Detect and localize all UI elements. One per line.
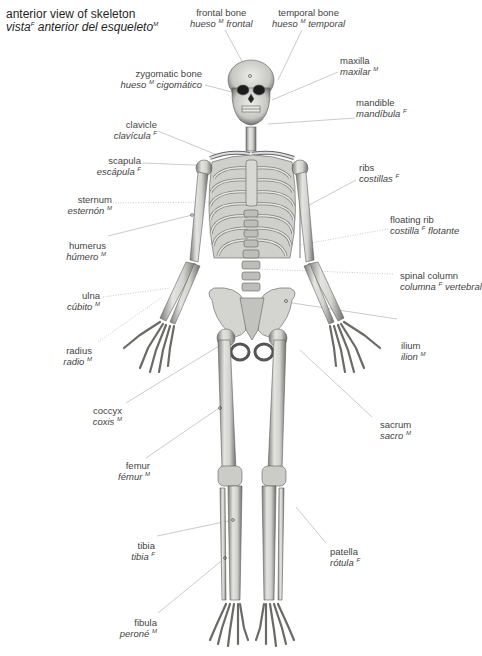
label-patella: patella rótula F bbox=[330, 546, 360, 568]
label-mandible: mandible mandíbula F bbox=[356, 97, 407, 119]
label-spinal-column: spinal column columna F vertebral bbox=[400, 270, 482, 292]
label-ulna: ulna cúbito M bbox=[67, 290, 100, 312]
label-sacrum: sacrum sacro M bbox=[380, 419, 411, 441]
label-zygomatic-bone: zygomatic bone hueso M cigomático bbox=[120, 68, 202, 90]
label-femur: femur fémur M bbox=[118, 460, 150, 482]
label-ribs: ribs costillas F bbox=[359, 162, 399, 184]
label-temporal-bone: temporal bone hueso M temporal bbox=[272, 7, 345, 29]
label-floating-rib: floating rib costilla F flotante bbox=[390, 214, 459, 236]
label-coccyx: coccyx coxis M bbox=[93, 405, 122, 427]
label-tibia: tibia tibia F bbox=[131, 540, 155, 562]
label-scapula: scapula escápula F bbox=[97, 155, 141, 177]
label-clavicle: clavicle clavícula F bbox=[114, 119, 157, 141]
label-maxilla: maxilla maxilar M bbox=[340, 55, 378, 77]
label-ilium: ilium ilion M bbox=[401, 340, 426, 362]
label-humerus: humerus húmero M bbox=[66, 240, 106, 262]
label-radius: radius radio M bbox=[63, 345, 92, 367]
label-sternum: sternum esternón M bbox=[67, 194, 112, 216]
label-frontal-bone: frontal bone hueso M frontal bbox=[190, 7, 253, 29]
label-fibula: fibula peroné M bbox=[120, 617, 157, 639]
